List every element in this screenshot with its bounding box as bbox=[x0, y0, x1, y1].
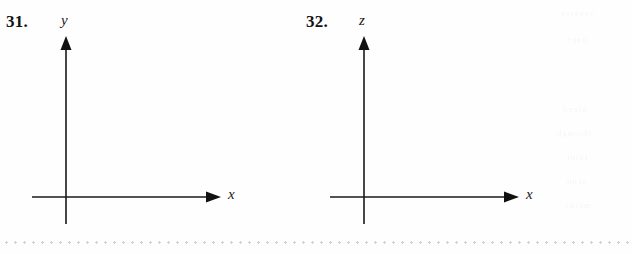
scan-ghost-mark: marks bbox=[564, 200, 591, 210]
horizontal-axis-label-32: x bbox=[526, 186, 533, 203]
horizontal-axis-arrowhead-31 bbox=[206, 192, 221, 203]
axis-figure-32: z x bbox=[300, 0, 600, 240]
scan-ghost-mark: page bbox=[566, 34, 587, 44]
scan-ghost-mark: reverse bbox=[560, 8, 593, 18]
axis-figure-31: y x bbox=[0, 0, 300, 240]
vertical-axis-arrowhead-31 bbox=[61, 36, 72, 50]
page-section-separator bbox=[0, 241, 632, 244]
vertical-axis-label-32: z bbox=[359, 12, 365, 29]
vertical-axis-label-31: y bbox=[61, 12, 68, 29]
scan-ghost-mark: faint bbox=[566, 152, 588, 162]
scan-ghost-mark: bleed bbox=[562, 104, 587, 114]
coordinate-axes-32 bbox=[300, 0, 600, 240]
scan-ghost-mark: scan bbox=[566, 176, 586, 186]
horizontal-axis-arrowhead-32 bbox=[504, 192, 519, 203]
scan-ghost-mark: through bbox=[556, 128, 591, 138]
scanned-textbook-page: 31. y x 32. z x reversep bbox=[0, 0, 632, 254]
horizontal-axis-label-31: x bbox=[228, 186, 235, 203]
vertical-axis-arrowhead-32 bbox=[359, 36, 370, 50]
coordinate-axes-31 bbox=[0, 0, 300, 240]
